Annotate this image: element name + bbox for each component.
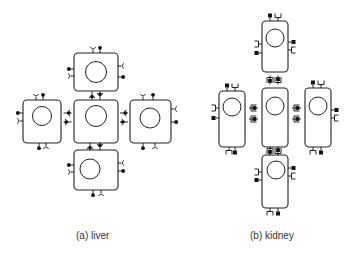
diagram-canvas (0, 0, 353, 255)
liver-cell-center (74, 100, 118, 143)
liver-panel (16, 46, 178, 197)
liver-cell-left (16, 93, 61, 150)
kidney-cell-bottom (255, 155, 296, 216)
liver-cell-right (130, 93, 178, 150)
nucleus (140, 108, 160, 128)
liver-caption: (a) liver (76, 230, 109, 241)
liver-cell-bottom (67, 150, 125, 197)
kidney-cell-center (262, 88, 288, 147)
nucleus (309, 97, 327, 115)
kidney-caption: (b) kidney (250, 230, 294, 241)
nucleus (266, 29, 284, 47)
nucleus (223, 98, 241, 116)
nucleus (33, 107, 52, 126)
nucleus (86, 106, 107, 127)
kidney-cell-right (305, 81, 339, 155)
nucleus (80, 159, 100, 179)
kidney-cell-left (212, 84, 246, 155)
liver-cell-top (67, 46, 125, 91)
nucleus (266, 97, 284, 115)
nucleus (267, 161, 285, 179)
nucleus (86, 62, 107, 83)
kidney-cell-top (255, 14, 296, 73)
kidney-panel (212, 14, 339, 216)
